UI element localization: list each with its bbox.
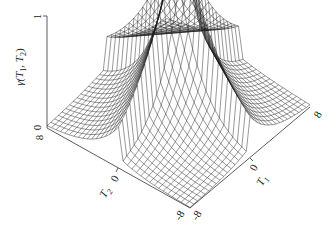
z-title-end: ) xyxy=(13,48,25,52)
mesh-line xyxy=(133,0,276,124)
mesh-line xyxy=(145,22,265,179)
z-title-mid: , T xyxy=(13,56,25,68)
mesh-line xyxy=(73,64,216,184)
mesh-line xyxy=(70,75,213,188)
mesh-line xyxy=(69,23,189,135)
mesh-line xyxy=(47,126,190,208)
wireframe-mesh xyxy=(47,0,310,207)
mesh-line xyxy=(177,95,297,200)
mesh-line xyxy=(181,99,301,202)
z-title-sub2: 2 xyxy=(19,52,28,56)
z-axis-title: γ(T1, T2) xyxy=(14,48,28,85)
left-corner-tick-label: 8 xyxy=(34,135,45,141)
mesh-line xyxy=(83,7,203,138)
mesh-line xyxy=(137,2,280,123)
mesh-line xyxy=(52,20,172,128)
mesh-line xyxy=(186,102,306,205)
mesh-line xyxy=(65,25,185,134)
surface-plot xyxy=(0,0,335,230)
mesh-line xyxy=(87,0,207,139)
z-title-sub1: 1 xyxy=(19,68,28,72)
z-title-part: γ(T xyxy=(13,72,25,86)
t2-zero-tick xyxy=(116,168,118,172)
t1-zero-tick xyxy=(250,158,253,161)
z-tick-bottom-label: 0 xyxy=(32,125,43,131)
mesh-line xyxy=(172,87,292,197)
mesh-line xyxy=(190,105,310,208)
t1-axis-line xyxy=(190,107,310,208)
mesh-line xyxy=(55,112,198,201)
mesh-line xyxy=(148,16,291,118)
z-tick-top-label: 1 xyxy=(32,14,43,20)
